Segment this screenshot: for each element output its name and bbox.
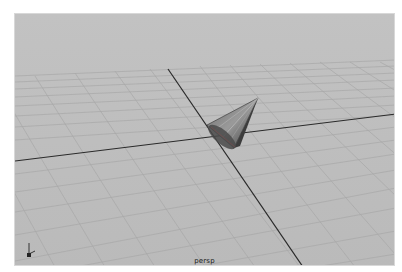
perspective-viewport[interactable]: persp bbox=[14, 13, 395, 266]
scene-canvas[interactable] bbox=[15, 14, 395, 266]
camera-label: persp bbox=[15, 257, 394, 265]
